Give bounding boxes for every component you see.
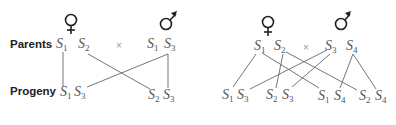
parent-allele: S2 bbox=[274, 38, 286, 55]
progeny-allele: S1 bbox=[222, 87, 234, 104]
progeny-allele: S2 bbox=[359, 88, 371, 105]
progeny-allele: S1 bbox=[318, 88, 330, 105]
female-symbol-icon bbox=[66, 15, 77, 35]
female-symbol-icon bbox=[263, 17, 274, 37]
parent-allele: S1 bbox=[254, 38, 266, 55]
progeny-allele: S3 bbox=[282, 87, 294, 104]
progeny-allele: S1 bbox=[60, 84, 72, 101]
progeny-allele: S3 bbox=[163, 87, 175, 104]
progeny-label: Progeny bbox=[10, 85, 56, 97]
male-symbol-icon bbox=[336, 11, 352, 30]
progeny-allele: S2 bbox=[266, 87, 278, 104]
progeny-allele: S2 bbox=[148, 87, 160, 104]
parent-allele: S3 bbox=[164, 36, 176, 53]
self-incompatibility-diagram: Parents Progeny S1 S2 × S1 S3 S1 S3 S2 S… bbox=[0, 0, 396, 125]
parents-label: Parents bbox=[10, 38, 52, 50]
progeny-allele: S3 bbox=[74, 84, 86, 101]
cross-symbol: × bbox=[116, 40, 122, 51]
connector-lines bbox=[0, 0, 396, 125]
parent-allele: S1 bbox=[147, 36, 159, 53]
progeny-allele: S3 bbox=[237, 87, 249, 104]
parent-allele: S2 bbox=[78, 36, 90, 53]
progeny-allele: S4 bbox=[375, 88, 387, 105]
cross-symbol: × bbox=[303, 42, 309, 53]
progeny-allele: S4 bbox=[334, 88, 346, 105]
parent-allele: S1 bbox=[56, 36, 68, 53]
parent-allele: S3 bbox=[325, 38, 337, 55]
male-symbol-icon bbox=[161, 11, 178, 30]
parent-allele: S4 bbox=[346, 38, 358, 55]
